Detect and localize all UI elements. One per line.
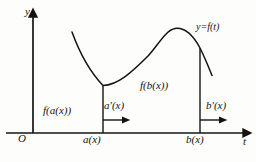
annotation-f-at-upper: f(b(x)): [140, 80, 168, 91]
annotation-f-at-lower: f(a(x)): [43, 105, 71, 116]
integral-derivative-diagram: y t O a(x) b(x) f(a(x)) f(b(x)) a′(x) b′…: [0, 0, 256, 162]
annotation-lower-derivative: a′(x): [104, 100, 124, 111]
tick-label-lower-limit: a(x): [83, 134, 101, 145]
x-axis-label: t: [243, 136, 246, 147]
y-axis-label: y: [25, 6, 30, 17]
origin-label: O: [18, 133, 26, 144]
tick-label-upper-limit: b(x): [186, 134, 204, 145]
curve-label: y=f(t): [196, 22, 219, 32]
annotation-upper-derivative: b′(x): [206, 100, 226, 111]
function-curve: [72, 28, 212, 85]
